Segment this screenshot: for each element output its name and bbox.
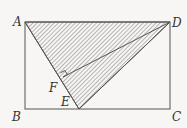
shaded-triangle-ade (25, 22, 170, 109)
label-e: E (60, 95, 70, 109)
label-c: C (172, 110, 181, 124)
label-b: B (11, 110, 21, 124)
label-d: D (171, 16, 182, 30)
geometry-diagram: A D B C F E (0, 0, 187, 128)
label-f: F (48, 81, 58, 95)
label-a: A (12, 15, 22, 29)
